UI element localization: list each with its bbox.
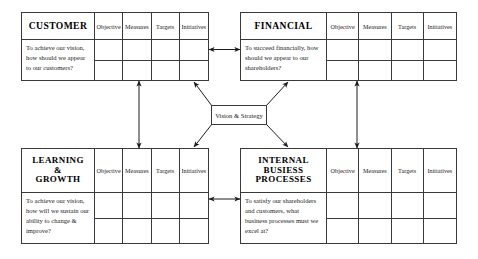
perspective-question-internal-business-processes: To satisfy our shareholders and customer… <box>241 193 326 243</box>
learning-column-objective: Objective <box>95 149 123 243</box>
column-header-measures: Measures <box>359 149 391 193</box>
learning-cell-targets-2[interactable] <box>152 219 180 244</box>
financial-column-measures: Measures <box>359 13 391 80</box>
customer-column-objective: Objective <box>95 13 123 80</box>
internal-column-measures: Measures <box>359 149 391 243</box>
learning-grid: Objective Measures Targets Initiatives <box>95 149 208 243</box>
perspective-internal-business-processes: INTERNAL BUSIESS PROCESSES To satisfy ou… <box>240 148 457 244</box>
learning-cell-objective-2[interactable] <box>95 219 123 244</box>
column-header-targets: Targets <box>392 149 424 193</box>
perspective-financial: FINANCIAL To succeed financially, how sh… <box>240 12 457 81</box>
learning-cell-targets-1[interactable] <box>152 193 180 219</box>
perspective-question-customer: To achieve our vision, how should we app… <box>22 40 94 80</box>
internal-cell-objective-1[interactable] <box>327 193 359 219</box>
internal-cell-initiatives-1[interactable] <box>424 193 456 219</box>
financial-column-objective: Objective <box>327 13 359 80</box>
financial-cell-targets-2[interactable] <box>392 61 424 81</box>
vision-and-strategy-box[interactable]: Vision & Strategy <box>211 105 267 125</box>
column-header-measures: Measures <box>123 149 151 193</box>
perspective-title-internal-business-processes: INTERNAL BUSIESS PROCESSES <box>241 149 326 193</box>
learning-cell-measures-1[interactable] <box>123 193 151 219</box>
learning-column-initiatives: Initiatives <box>180 149 208 243</box>
perspective-question-financial: To succeed financially, how should we ap… <box>241 40 326 80</box>
column-header-objective: Objective <box>95 149 123 193</box>
internal-title-column: INTERNAL BUSIESS PROCESSES To satisfy ou… <box>241 149 327 243</box>
learning-title-line-3: GROWTH <box>36 175 81 185</box>
financial-grid: Objective Measures Targets Initiatives <box>327 13 456 80</box>
balanced-scorecard-diagram: CUSTOMER To achieve our vision, how shou… <box>0 0 478 259</box>
vision-and-strategy-label: Vision & Strategy <box>215 112 263 119</box>
customer-title-column: CUSTOMER To achieve our vision, how shou… <box>22 13 95 80</box>
connector-vision-customer <box>194 82 212 106</box>
customer-cell-objective-1[interactable] <box>95 40 123 61</box>
customer-cell-measures-1[interactable] <box>123 40 151 61</box>
connector-vision-learning <box>194 124 212 147</box>
internal-cell-measures-1[interactable] <box>359 193 391 219</box>
perspective-title-financial: FINANCIAL <box>241 13 326 40</box>
column-header-targets: Targets <box>392 13 424 40</box>
perspective-title-learning-growth: LEARNING & GROWTH <box>22 149 94 193</box>
financial-cell-initiatives-1[interactable] <box>424 40 456 61</box>
column-header-objective: Objective <box>95 13 123 40</box>
learning-cell-initiatives-1[interactable] <box>180 193 208 219</box>
column-header-measures: Measures <box>359 13 391 40</box>
customer-grid: Objective Measures Targets Initiatives <box>95 13 208 80</box>
learning-cell-measures-2[interactable] <box>123 219 151 244</box>
financial-cell-measures-1[interactable] <box>359 40 391 61</box>
customer-cell-objective-2[interactable] <box>95 61 123 81</box>
perspective-learning-growth: LEARNING & GROWTH To achieve our vision,… <box>21 148 209 244</box>
internal-column-objective: Objective <box>327 149 359 243</box>
column-header-initiatives: Initiatives <box>180 13 208 40</box>
internal-grid: Objective Measures Targets Initiatives <box>327 149 456 243</box>
internal-cell-measures-2[interactable] <box>359 219 391 244</box>
internal-column-targets: Targets <box>392 149 424 243</box>
perspective-question-learning-growth: To achieve our vision, how will we susta… <box>22 193 94 243</box>
internal-cell-targets-1[interactable] <box>392 193 424 219</box>
internal-cell-targets-2[interactable] <box>392 219 424 244</box>
column-header-objective: Objective <box>327 149 359 193</box>
column-header-targets: Targets <box>152 149 180 193</box>
financial-cell-measures-2[interactable] <box>359 61 391 81</box>
connector-vision-financial <box>266 82 288 106</box>
financial-title-column: FINANCIAL To succeed financially, how sh… <box>241 13 327 80</box>
financial-cell-targets-1[interactable] <box>392 40 424 61</box>
financial-cell-objective-2[interactable] <box>327 61 359 81</box>
learning-column-targets: Targets <box>152 149 180 243</box>
customer-cell-initiatives-1[interactable] <box>180 40 208 61</box>
financial-cell-initiatives-2[interactable] <box>424 61 456 81</box>
financial-column-targets: Targets <box>392 13 424 80</box>
column-header-initiatives: Initiatives <box>424 13 456 40</box>
perspective-title-customer: CUSTOMER <box>22 13 94 40</box>
internal-column-initiatives: Initiatives <box>424 149 456 243</box>
learning-cell-objective-1[interactable] <box>95 193 123 219</box>
column-header-initiatives: Initiatives <box>424 149 456 193</box>
learning-column-measures: Measures <box>123 149 151 243</box>
customer-column-targets: Targets <box>152 13 180 80</box>
connector-vision-internal <box>266 124 288 147</box>
column-header-measures: Measures <box>123 13 151 40</box>
customer-cell-targets-2[interactable] <box>152 61 180 81</box>
column-header-initiatives: Initiatives <box>180 149 208 193</box>
learning-cell-initiatives-2[interactable] <box>180 219 208 244</box>
customer-cell-measures-2[interactable] <box>123 61 151 81</box>
internal-cell-initiatives-2[interactable] <box>424 219 456 244</box>
customer-column-measures: Measures <box>123 13 151 80</box>
customer-cell-initiatives-2[interactable] <box>180 61 208 81</box>
customer-cell-targets-1[interactable] <box>152 40 180 61</box>
learning-title-column: LEARNING & GROWTH To achieve our vision,… <box>22 149 95 243</box>
column-header-objective: Objective <box>327 13 359 40</box>
customer-column-initiatives: Initiatives <box>180 13 208 80</box>
financial-column-initiatives: Initiatives <box>424 13 456 80</box>
internal-cell-objective-2[interactable] <box>327 219 359 244</box>
perspective-customer: CUSTOMER To achieve our vision, how shou… <box>21 12 209 81</box>
column-header-targets: Targets <box>152 13 180 40</box>
internal-title-line-3: PROCESSES <box>255 175 311 185</box>
financial-cell-objective-1[interactable] <box>327 40 359 61</box>
